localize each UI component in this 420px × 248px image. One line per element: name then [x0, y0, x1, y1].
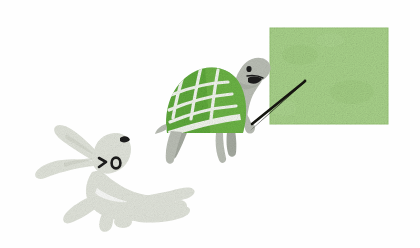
turtle-eye [246, 66, 251, 72]
presentation-board[interactable] [270, 28, 388, 124]
hare-foot [114, 216, 132, 228]
hare-tail [173, 200, 187, 212]
illustration-svg [0, 0, 420, 248]
illustration-canvas: Tortoise with pointer at a green board a… [0, 0, 420, 248]
pointer-tip [304, 80, 307, 83]
